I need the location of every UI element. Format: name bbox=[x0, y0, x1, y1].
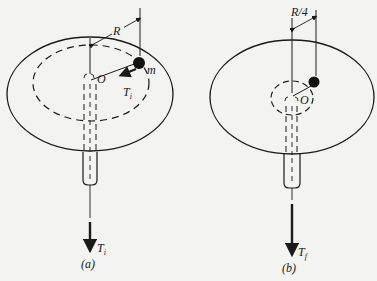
tension-arrow-a bbox=[124, 69, 136, 74]
center-label-b: O bbox=[300, 93, 309, 107]
diagram-svg: R m Ti O Ti (a) R/4 bbox=[0, 0, 377, 281]
tension-label-a: Ti bbox=[123, 85, 132, 101]
bottom-tension-label-b: Tf bbox=[298, 245, 309, 261]
radius-label-a: R bbox=[112, 24, 121, 38]
mass-a bbox=[133, 57, 145, 69]
caption-a: (a) bbox=[81, 257, 95, 271]
orbit-path-a bbox=[33, 45, 149, 121]
center-label-a: O bbox=[97, 72, 106, 86]
hole-a bbox=[84, 74, 94, 78]
caption-b: (b) bbox=[282, 261, 296, 275]
radius-label-b: R/4 bbox=[290, 5, 308, 19]
panel-b: R/4 O Tf (b) bbox=[210, 5, 374, 275]
figure-stage: R m Ti O Ti (a) R/4 bbox=[0, 0, 377, 281]
bottom-tension-label-a: Ti bbox=[97, 241, 106, 257]
mass-label-a: m bbox=[147, 63, 156, 77]
hole-b bbox=[285, 97, 298, 101]
panel-a: R m Ti O Ti (a) bbox=[7, 8, 173, 271]
mass-b bbox=[309, 77, 320, 88]
